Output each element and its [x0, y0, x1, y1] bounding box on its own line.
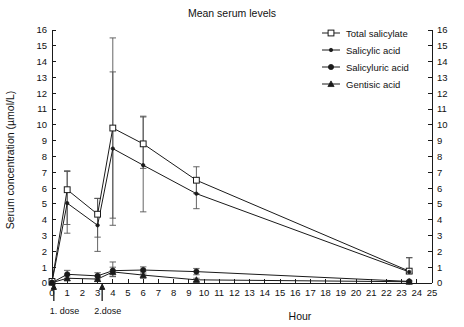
x-tick-label: 14	[260, 287, 271, 298]
chart-title: Mean serum levels	[188, 7, 276, 19]
marker-open-square	[328, 30, 334, 36]
x-tick-label: 5	[125, 287, 130, 298]
y-tick-label-right: 3	[437, 230, 442, 241]
y-tick-label-left: 7	[42, 167, 47, 178]
x-tick-label: 23	[396, 287, 407, 298]
marker-small-dot	[408, 270, 411, 273]
marker-filled-circle	[328, 64, 333, 69]
x-tick-label: 20	[351, 287, 362, 298]
marker-open-square	[110, 125, 116, 131]
y-tick-label-right: 15	[437, 40, 448, 51]
y-tick-label-right: 12	[437, 88, 448, 99]
x-tick-label: 18	[320, 287, 331, 298]
y-tick-label-left: 13	[36, 72, 47, 83]
x-tick-label: 15	[275, 287, 286, 298]
marker-small-dot	[195, 192, 198, 195]
y-tick-label-left: 16	[36, 24, 47, 35]
y-tick-label-right: 8	[437, 151, 442, 162]
y-tick-label-left: 10	[36, 119, 47, 130]
x-tick-label: 24	[412, 287, 423, 298]
y-tick-label-left: 2	[42, 246, 47, 257]
x-tick-label: 13	[244, 287, 255, 298]
y-tick-label-left: 15	[36, 40, 47, 51]
marker-small-dot	[142, 163, 145, 166]
x-tick-label: 16	[290, 287, 301, 298]
y-tick-label-right: 0	[437, 277, 442, 288]
x-tick-label: 6	[141, 287, 146, 298]
y-tick-label-left: 6	[42, 183, 47, 194]
x-tick-label: 9	[186, 287, 191, 298]
x-tick-label: 10	[199, 287, 210, 298]
x-tick-label: 8	[171, 287, 176, 298]
y-tick-label-right: 13	[437, 72, 448, 83]
y-tick-label-left: 11	[37, 103, 47, 114]
y-tick-label-left: 4	[42, 214, 47, 225]
marker-open-square	[64, 187, 70, 193]
y-tick-label-right: 7	[437, 167, 442, 178]
marker-small-dot	[96, 224, 99, 227]
marker-open-square	[140, 141, 146, 147]
x-tick-label: 19	[336, 287, 347, 298]
y-axis-title: Serum concentration (µmol/L)	[4, 91, 16, 230]
x-tick-label: 21	[366, 287, 377, 298]
dose-label: 1. dose	[50, 306, 80, 316]
marker-filled-circle	[194, 269, 199, 274]
dose-label: 2.dose	[94, 306, 121, 316]
x-axis-title: Hour	[289, 310, 312, 322]
x-tick-label: 12	[229, 287, 240, 298]
y-tick-label-right: 6	[437, 183, 442, 194]
y-tick-label-left: 1	[42, 262, 47, 273]
y-tick-label-right: 2	[437, 246, 442, 257]
y-tick-label-left: 5	[42, 198, 47, 209]
y-tick-label-left: 12	[36, 88, 47, 99]
y-tick-label-left: 0	[42, 277, 47, 288]
y-tick-label-left: 14	[36, 56, 47, 67]
x-tick-label: 11	[214, 287, 224, 298]
x-tick-label: 22	[381, 287, 392, 298]
y-tick-label-right: 10	[437, 119, 448, 130]
x-tick-label: 4	[110, 287, 115, 298]
x-tick-label: 2	[80, 287, 85, 298]
chart-figure: Mean serum levels Serum concentration (µ…	[0, 0, 464, 327]
y-tick-label-right: 14	[437, 56, 448, 67]
y-tick-label-right: 4	[437, 214, 442, 225]
y-tick-label-right: 11	[437, 103, 447, 114]
marker-small-dot	[111, 147, 114, 150]
y-tick-label-right: 1	[437, 262, 442, 273]
marker-open-square	[194, 177, 200, 183]
y-tick-label-right: 5	[437, 198, 442, 209]
y-tick-label-left: 9	[42, 135, 47, 146]
legend-label: Salicyluric acid	[346, 62, 409, 73]
y-tick-label-left: 8	[42, 151, 47, 162]
marker-small-dot	[329, 48, 332, 51]
legend-label: Salicylic acid	[346, 45, 400, 56]
marker-small-dot	[66, 201, 69, 204]
y-tick-label-right: 9	[437, 135, 442, 146]
y-tick-label-right: 16	[437, 24, 448, 35]
x-tick-label: 7	[156, 287, 161, 298]
x-tick-label: 25	[427, 287, 438, 298]
legend-label: Gentisic acid	[346, 79, 400, 90]
x-tick-label: 1	[65, 287, 70, 298]
mean-serum-levels-chart: Mean serum levels Serum concentration (µ…	[0, 0, 464, 327]
y-tick-label-left: 3	[42, 230, 47, 241]
marker-open-square	[95, 211, 101, 217]
legend-label: Total salicylate	[346, 28, 408, 39]
x-tick-label: 17	[305, 287, 316, 298]
